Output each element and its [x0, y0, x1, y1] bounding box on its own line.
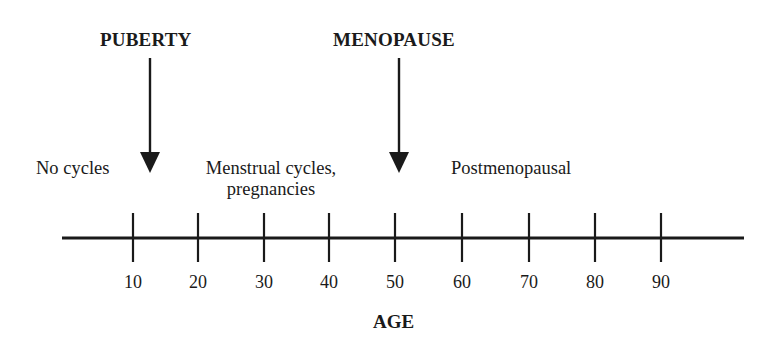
tick-label: 50	[386, 272, 404, 293]
phase-label-no-cycles: No cycles	[36, 158, 109, 179]
tick-label: 60	[453, 272, 471, 293]
tick-label: 10	[124, 272, 142, 293]
phase-label-postmenopausal: Postmenopausal	[451, 158, 571, 179]
axis-title: AGE	[373, 311, 414, 333]
menopause-arrow-icon	[389, 58, 409, 173]
tick-label: 70	[520, 272, 538, 293]
tick-label: 20	[189, 272, 207, 293]
phase-label-line2: pregnancies	[196, 179, 346, 200]
tick-label: 90	[652, 272, 670, 293]
tick-label: 40	[320, 272, 338, 293]
puberty-label: PUBERTY	[100, 29, 192, 51]
phase-label-menstrual-cycles: Menstrual cycles, pregnancies	[196, 158, 346, 200]
tick-label: 80	[586, 272, 604, 293]
tick-label: 30	[255, 272, 273, 293]
menopause-label: MENOPAUSE	[333, 29, 455, 51]
puberty-arrow-icon	[140, 58, 160, 173]
phase-label-line1: Menstrual cycles,	[196, 158, 346, 179]
